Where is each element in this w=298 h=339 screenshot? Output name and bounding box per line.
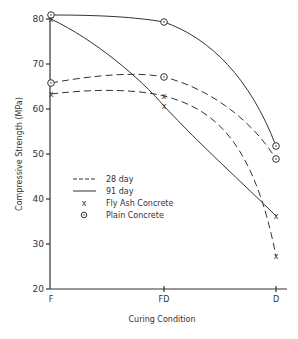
legend-x-marker-icon: x <box>82 199 87 208</box>
plain-marker-dots <box>50 14 277 160</box>
marker-flyash-28-fd: x <box>162 92 167 101</box>
x-tick-labels: F FD D <box>49 295 279 304</box>
x-tick-fd: FD <box>159 295 170 304</box>
x-tick-f: F <box>49 295 54 304</box>
y-axis-title: Compressive Strength (MPa) <box>15 97 24 211</box>
y-tick-20: 20 <box>33 284 45 294</box>
plain-markers <box>48 12 280 163</box>
legend-plain: Plain Concrete <box>106 211 164 220</box>
legend: 28 day 91 day x Fly Ash Concrete Plain C… <box>73 175 173 220</box>
y-tick-labels: 80 70 60 50 40 30 20 <box>33 14 45 294</box>
y-tick-50: 50 <box>33 149 45 159</box>
compressive-strength-chart: 80 70 60 50 40 30 20 F FD D Curing Condi… <box>0 0 298 339</box>
x-tick-d: D <box>273 295 279 304</box>
legend-28day: 28 day <box>106 175 134 184</box>
y-tick-40: 40 <box>33 194 45 204</box>
line-flyash-28day <box>51 90 276 256</box>
x-axis-title: Curing Condition <box>128 315 195 324</box>
y-tick-80: 80 <box>33 14 45 24</box>
flyash-markers: x x x x x x <box>49 15 279 261</box>
legend-91day: 91 day <box>106 187 134 196</box>
marker-flyash-28-d: x <box>274 252 279 261</box>
y-tick-60: 60 <box>33 104 45 114</box>
marker-flyash-91-f: x <box>49 15 54 24</box>
line-plain-28day <box>51 74 276 159</box>
marker-flyash-91-d: x <box>274 212 279 221</box>
axes <box>46 17 287 292</box>
marker-flyash-91-fd: x <box>162 102 167 111</box>
marker-flyash-28-f: x <box>49 90 54 99</box>
line-flyash-91day <box>51 19 276 216</box>
chart-svg: 80 70 60 50 40 30 20 F FD D Curing Condi… <box>0 0 298 339</box>
y-tick-70: 70 <box>33 59 45 69</box>
legend-flyash: Fly Ash Concrete <box>106 199 173 208</box>
y-tick-30: 30 <box>33 239 45 249</box>
